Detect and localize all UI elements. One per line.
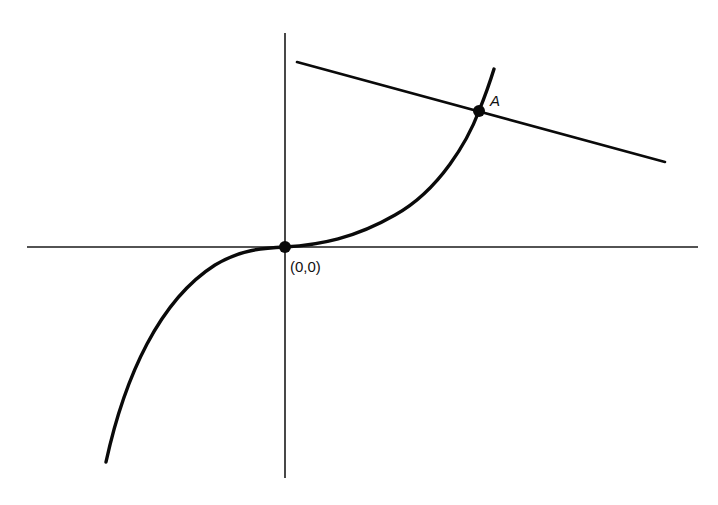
point-a-label: A <box>490 93 500 108</box>
origin-label: (0,0) <box>290 259 321 274</box>
origin-point <box>279 241 291 253</box>
point-a <box>473 105 485 117</box>
graph-figure <box>0 0 718 505</box>
